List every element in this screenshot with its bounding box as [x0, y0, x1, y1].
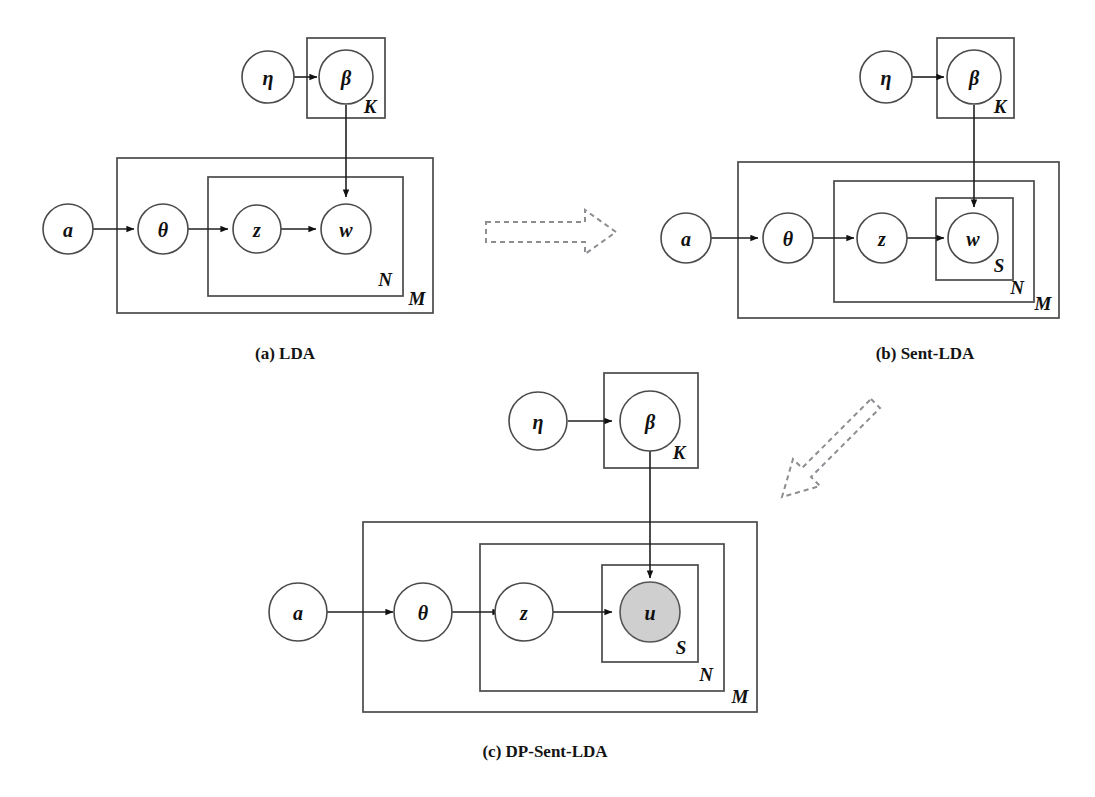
- panel-a-node-alpha-label: a: [63, 219, 73, 241]
- panel-c-plate-N-label: N: [698, 664, 714, 685]
- panel-b-node-alpha-label: a: [681, 228, 691, 250]
- panel-a-node-z-label: z: [252, 219, 261, 241]
- plate-diagram-svg: K M N η β a θ z w: [0, 0, 1095, 797]
- panel-c-node-eta-label: η: [533, 411, 544, 434]
- panel-a-node-w-label: w: [339, 219, 353, 241]
- panel-b-plate-K-label: K: [993, 96, 1008, 117]
- panel-c-plate-M-label: M: [731, 686, 750, 707]
- panel-b-plate-S-label: S: [994, 255, 1005, 276]
- panel-b-node-w-label: w: [966, 228, 980, 250]
- panel-b-node-beta-label: β: [968, 67, 980, 90]
- panel-a-plate-N-label: N: [377, 269, 393, 290]
- panel-b-caption: (b) Sent-LDA: [876, 344, 975, 363]
- panel-c: K M N S η β a θ z: [269, 373, 757, 761]
- transition-arrow-b-to-c: [782, 399, 880, 497]
- panel-c-node-alpha-label: a: [293, 602, 303, 624]
- panel-c-plate-K-label: K: [672, 442, 687, 463]
- panel-c-caption: (c) DP-Sent-LDA: [482, 742, 608, 761]
- panel-a-caption: (a) LDA: [255, 344, 316, 363]
- panel-b: K M N S η β a θ z: [661, 38, 1059, 363]
- panel-c-node-theta-label: θ: [418, 602, 429, 624]
- panel-a-node-theta-label: θ: [158, 219, 169, 241]
- panel-b-node-eta-label: η: [881, 67, 892, 90]
- panel-a: K M N η β a θ z w: [43, 38, 433, 363]
- panel-b-plate-M-label: M: [1034, 293, 1053, 314]
- panel-c-node-beta-label: β: [644, 411, 656, 434]
- panel-c-node-z-label: z: [519, 602, 528, 624]
- transition-arrow-a-to-b: [486, 210, 616, 254]
- panel-c-plate-S-label: S: [676, 637, 687, 658]
- panel-a-node-beta-label: β: [340, 67, 352, 90]
- panel-a-node-eta-label: η: [263, 67, 274, 90]
- panel-a-plate-M-label: M: [408, 288, 427, 309]
- panel-c-node-u-label: u: [644, 602, 655, 624]
- figure-canvas: K M N η β a θ z w: [0, 0, 1095, 797]
- panel-b-node-z-label: z: [877, 228, 886, 250]
- panel-a-plate-K-label: K: [363, 96, 378, 117]
- panel-b-node-theta-label: θ: [783, 228, 794, 250]
